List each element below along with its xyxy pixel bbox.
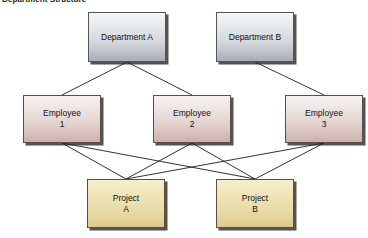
node-employee-2-label: Employee 2 — [171, 108, 213, 129]
org-chart-diagram: Department Structure Department A Depart… — [0, 0, 368, 238]
node-employee-2-line2: 2 — [190, 119, 195, 129]
edge-deptA-emp2 — [127, 62, 192, 95]
node-project-b-line1: Project — [242, 193, 268, 203]
node-employee-1[interactable]: Employee 1 — [23, 95, 101, 143]
node-employee-2-line1: Employee — [173, 108, 211, 118]
node-project-a-line1: Project — [113, 193, 139, 203]
node-department-b-label: Department B — [227, 32, 283, 43]
node-employee-2[interactable]: Employee 2 — [153, 95, 231, 143]
node-employee-1-line2: 1 — [60, 119, 65, 129]
edge-emp3-projB — [255, 143, 324, 179]
node-project-a[interactable]: Project A — [87, 179, 165, 228]
node-project-a-label: Project A — [111, 193, 141, 214]
node-employee-3-label: Employee 3 — [303, 108, 345, 129]
node-department-b[interactable]: Department B — [216, 12, 294, 62]
node-employee-3[interactable]: Employee 3 — [285, 95, 363, 143]
node-employee-1-line1: Employee — [43, 108, 81, 118]
node-employee-3-line2: 3 — [322, 119, 327, 129]
node-project-b-line2: B — [252, 204, 258, 214]
node-project-a-line2: A — [123, 204, 129, 214]
node-department-a-label: Department A — [99, 32, 155, 43]
node-project-b-label: Project B — [240, 193, 270, 214]
edge-deptB-emp3 — [255, 62, 324, 95]
edge-deptA-emp1 — [62, 62, 127, 95]
node-employee-1-label: Employee 1 — [41, 108, 83, 129]
node-project-b[interactable]: Project B — [216, 179, 294, 228]
edge-emp1-projA — [62, 143, 126, 179]
node-department-a[interactable]: Department A — [88, 12, 166, 62]
edge-emp2-projB — [192, 143, 255, 179]
node-employee-3-line1: Employee — [305, 108, 343, 118]
